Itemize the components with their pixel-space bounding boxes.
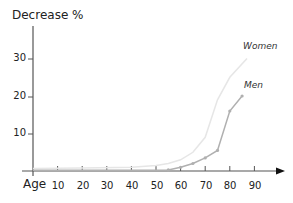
y-axis-label: Decrease %: [12, 8, 83, 22]
series-label-women: Women: [243, 41, 277, 51]
data-point: [167, 168, 170, 171]
series-label-men: Men: [244, 80, 263, 90]
data-point: [228, 109, 231, 112]
data-point: [191, 162, 194, 165]
axis-arrow-icon: [276, 168, 285, 175]
x-tick-30: 30: [97, 180, 117, 191]
x-tick-40: 40: [122, 180, 142, 191]
x-tick-90: 90: [245, 180, 265, 191]
data-point: [179, 166, 182, 169]
x-tick-50: 50: [147, 180, 167, 191]
line-men: [33, 96, 242, 170]
x-tick-80: 80: [220, 180, 240, 191]
data-point: [204, 156, 207, 159]
data-point: [216, 149, 219, 152]
x-tick-10: 10: [48, 180, 68, 191]
data-point: [241, 94, 244, 97]
x-axis-label: Age: [23, 177, 46, 191]
x-tick-20: 20: [73, 180, 93, 191]
x-tick-60: 60: [171, 180, 191, 191]
y-tick-20: 20: [6, 90, 26, 101]
x-tick-70: 70: [196, 180, 216, 191]
y-tick-30: 30: [6, 52, 26, 63]
y-tick-10: 10: [6, 127, 26, 138]
chart-canvas: [0, 0, 293, 203]
